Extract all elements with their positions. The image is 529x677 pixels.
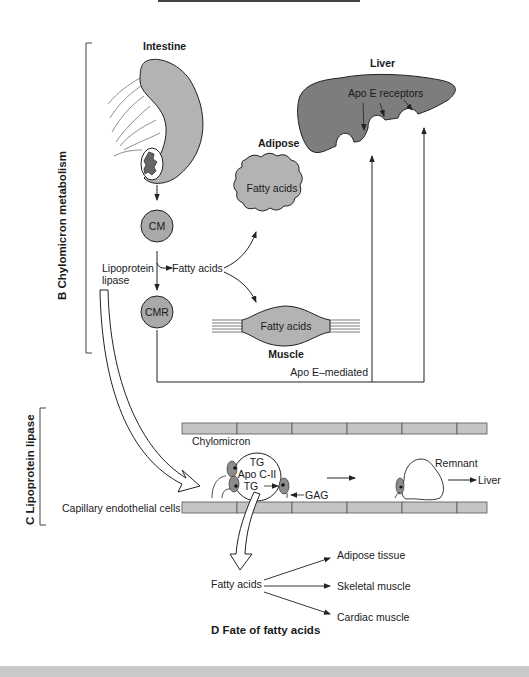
target-adipose-tissue: Adipose tissue: [337, 549, 405, 561]
cmr-label: CMR: [145, 306, 169, 318]
remnant-label: Remnant: [435, 457, 478, 469]
section-b-title: B Chylomicron metabolism: [56, 151, 68, 300]
upper-capillary-wall: [182, 423, 487, 434]
apo-e-receptors-label: Apo E receptors: [348, 87, 423, 99]
liver-label: Liver: [370, 57, 395, 69]
cm-label: CM: [149, 220, 165, 232]
tg-bottom-label: TG: [244, 480, 259, 492]
muscle-content-label: Fatty acids: [261, 320, 312, 332]
chylomicron-label: Chylomicron: [192, 435, 251, 447]
intestine-icon: [108, 59, 203, 183]
target-skeletal-muscle: Skeletal muscle: [337, 580, 411, 592]
section-c-bracket: [40, 408, 46, 525]
fatty-acids-to-adipose-arrow: [224, 232, 256, 268]
adipose-label: Adipose: [258, 137, 300, 149]
muscle-label: Muscle: [268, 348, 304, 360]
fatty-acids-to-muscle-arrow: [224, 272, 256, 302]
chylomicron-metabolism-diagram: B Chylomicron metabolism Intestine CM Li…: [0, 0, 529, 677]
to-adipose-tissue-arrow: [264, 558, 330, 580]
lipoprotein-lipase-label-line1: Lipoprotein: [102, 262, 154, 274]
footer-band: [0, 666, 529, 677]
section-c-title: C Lipoprotein lipase: [24, 414, 36, 525]
apo-c2-label: Apo C-II: [238, 468, 277, 480]
gag-label: GAG: [305, 489, 328, 501]
adipose-content-label: Fatty acids: [247, 182, 298, 194]
intestine-label: Intestine: [143, 40, 186, 52]
fatty-acids-source-label: Fatty acids: [211, 578, 262, 590]
apo-e-mediated-label: Apo E–mediated: [290, 366, 368, 378]
section-b-bracket: [86, 43, 92, 353]
lipoprotein-lipase-label-line2: lipase: [102, 274, 130, 286]
section-d-title: D Fate of fatty acids: [211, 624, 320, 636]
lower-capillary-wall: [182, 502, 487, 513]
to-cardiac-muscle-arrow: [264, 592, 330, 614]
capillary-endothelial-label: Capillary endothelial cells: [62, 502, 180, 514]
tg-top-label: TG: [250, 456, 265, 468]
fatty-acids-label: Fatty acids: [172, 262, 223, 274]
target-cardiac-muscle: Cardiac muscle: [337, 611, 410, 623]
lipase-branch-arrow: [157, 263, 172, 268]
liver-destination-label: Liver: [478, 474, 501, 486]
